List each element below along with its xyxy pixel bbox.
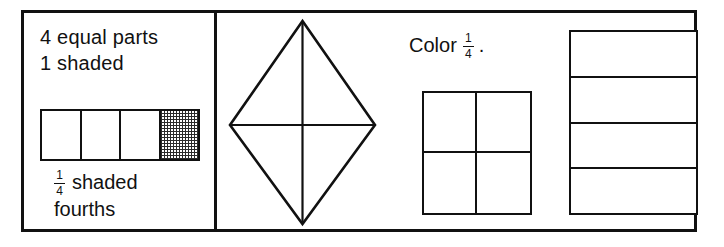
fraction-numerator: 1 [54,169,65,182]
instruction-fraction-glyph: 1 4 [463,32,474,61]
fraction-bar-cell-3[interactable] [121,111,161,159]
band-rectangle-cell-1[interactable] [571,32,696,78]
example-panel: 4 equal parts 1 shaded 1 4 shaded fourth… [24,13,214,229]
band-rectangle-cell-4[interactable] [571,169,696,213]
grid-square-cell-4[interactable] [477,153,530,213]
exercise-panel: Color 1 4 . [217,13,694,229]
shaded-fraction-label: 1 4 shaded [54,168,138,197]
caption-equal-parts: 4 equal parts [40,27,158,47]
grid-square-cell-1[interactable] [424,93,477,153]
instruction-fraction-numerator: 1 [463,32,474,45]
instruction-period: . [479,35,485,55]
instruction-verb: Color [409,35,457,55]
instruction-fraction-denominator: 4 [463,48,474,61]
caption-shaded-count: 1 shaded [40,53,124,73]
worksheet-frame: 4 equal parts 1 shaded 1 4 shaded fourth… [21,10,697,232]
fraction-bar-cell-2[interactable] [82,111,122,159]
shaded-word: shaded [72,172,138,192]
fraction-denominator: 4 [54,185,65,198]
grid-square-cell-3[interactable] [424,153,477,213]
fraction-bar-diagram [40,109,200,161]
band-rectangle-figure[interactable] [569,30,698,215]
instruction-text: Color 1 4 . [409,31,484,60]
grid-square-figure[interactable] [422,91,532,215]
rhombus-figure[interactable] [225,15,380,230]
grid-square-cell-2[interactable] [477,93,530,153]
fraction-bar-cell-1[interactable] [42,111,82,159]
band-rectangle-cell-2[interactable] [571,78,696,124]
band-rectangle-cell-3[interactable] [571,124,696,170]
fraction-bar-cell-4-shaded[interactable] [161,111,199,159]
fraction-one-fourth-glyph: 1 4 [54,169,65,198]
fourths-label: fourths [54,199,115,219]
